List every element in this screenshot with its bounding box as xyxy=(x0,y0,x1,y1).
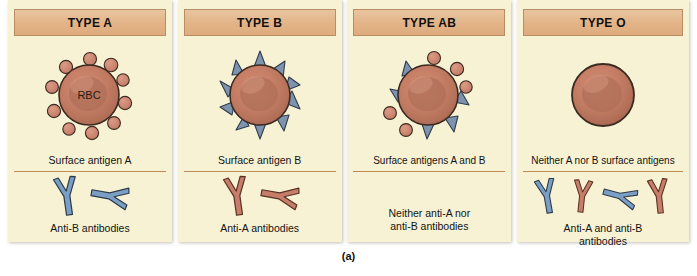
panel-title-type-b: TYPE B xyxy=(184,9,336,36)
rbc-type-b xyxy=(212,47,308,143)
panel-body-type-b: Surface antigen B xyxy=(184,36,336,244)
antibody-anti-a-icon xyxy=(642,175,676,219)
antibody-zone-type-b: Anti-A antibodies xyxy=(184,172,336,244)
antibody-caption-line-1: Anti-A and anti-B xyxy=(564,222,643,234)
antigen-caption-type-a: Surface antigen A xyxy=(14,154,166,170)
panel-type-ab: TYPE AB xyxy=(347,0,511,242)
antibody-anti-b-icon xyxy=(600,175,640,219)
antibody-zone-type-o: Anti-A and anti-B antibodies xyxy=(523,172,683,257)
rbc-type-ab-graphic xyxy=(381,47,477,143)
panel-type-b: TYPE B xyxy=(178,0,342,242)
panel-body-type-ab: Surface antigens A and B Neither anti-A … xyxy=(353,36,505,242)
rbc-type-o xyxy=(555,47,651,143)
panel-type-a: TYPE A xyxy=(8,0,172,242)
antibody-caption-type-b: Anti-A antibodies xyxy=(184,222,336,244)
panel-type-o: TYPE O xyxy=(517,0,689,242)
antibody-anti-b-icon xyxy=(48,174,86,220)
panel-body-type-o: Neither A nor B surface antigens xyxy=(523,36,683,257)
panel-title-type-ab: TYPE AB xyxy=(353,9,505,36)
antibody-anti-b-icon xyxy=(88,174,132,220)
antibody-zone-type-ab: Neither anti-A nor anti-B antibodies xyxy=(353,172,505,242)
panel-title-type-a: TYPE A xyxy=(14,9,166,36)
antibody-caption-line-1: Neither anti-A nor xyxy=(388,207,470,219)
antibody-anti-a-icon xyxy=(218,174,256,220)
panel-body-type-a: RBC Surface antigen A xyxy=(14,36,166,244)
antibody-anti-a-icon xyxy=(258,174,302,220)
antibody-anti-b-icon xyxy=(530,175,564,219)
rbc-type-o-graphic xyxy=(555,47,651,143)
rbc-type-b-graphic xyxy=(212,47,308,143)
cell-zone-type-b xyxy=(184,36,336,154)
antibody-caption-line-2: antibodies xyxy=(579,235,627,247)
antigen-caption-type-b: Surface antigen B xyxy=(184,154,336,170)
rbc-type-ab xyxy=(381,47,477,143)
antibody-row-type-ab xyxy=(353,172,505,207)
antibody-row-type-a xyxy=(14,172,166,222)
antibody-row-type-o xyxy=(523,172,683,222)
blood-type-figure: TYPE A xyxy=(0,0,697,276)
antibody-caption-line-2: anti-B antibodies xyxy=(390,220,468,232)
antigen-caption-type-o: Neither A nor B surface antigens xyxy=(523,154,683,170)
cell-zone-type-a: RBC xyxy=(14,36,166,154)
antibody-row-type-b xyxy=(184,172,336,222)
panel-row: TYPE A xyxy=(0,0,697,248)
antibody-caption-type-a: Anti-B antibodies xyxy=(14,222,166,244)
rbc-label: RBC xyxy=(77,89,100,101)
cell-zone-type-o xyxy=(523,36,683,154)
panel-title-type-o: TYPE O xyxy=(523,9,683,36)
rbc-type-a-graphic: RBC xyxy=(42,47,138,143)
rbc-type-a: RBC xyxy=(42,47,138,143)
antibody-zone-type-a: Anti-B antibodies xyxy=(14,172,166,244)
cell-zone-type-ab xyxy=(353,36,505,154)
antibody-anti-a-icon xyxy=(566,175,598,219)
figure-label: (a) xyxy=(0,250,697,262)
antibody-caption-type-ab: Neither anti-A nor anti-B antibodies xyxy=(353,207,505,242)
antigen-caption-type-ab: Surface antigens A and B xyxy=(353,154,505,170)
